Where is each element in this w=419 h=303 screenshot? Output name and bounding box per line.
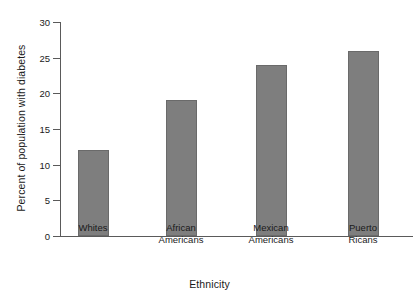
y-axis-tick-label: 5 [45,195,50,206]
x-axis-category-label: Whites [43,222,143,234]
y-axis-line [60,22,61,236]
bar [256,65,287,236]
bar-chart-figure: Percent of population with diabetes 0510… [0,0,419,303]
y-axis-tick-label: 10 [39,159,50,170]
y-axis-tick-label: 15 [39,124,50,135]
x-axis-category-label: AfricanAmericans [131,222,231,245]
y-axis-tick [53,22,60,23]
x-axis-category-label-line: Puerto [313,222,413,234]
plot-area: 051015202530 [60,22,413,236]
x-axis-category-label: MexicanAmericans [221,222,321,245]
y-axis-tick-label: 20 [39,88,50,99]
x-axis-category-label-line: Mexican [221,222,321,234]
y-axis-tick [53,58,60,59]
y-axis-tick [53,129,60,130]
bar [348,51,379,236]
y-axis-title: Percent of population with diabetes [14,8,28,248]
y-axis-tick [53,93,60,94]
x-axis-category-label-line: Ricans [313,234,413,246]
x-axis-category-label-line: African [131,222,231,234]
x-axis-category-label-line: Americans [131,234,231,246]
x-axis-category-label-line: Whites [43,222,143,234]
x-axis-category-label: PuertoRicans [313,222,413,245]
y-axis-tick [53,165,60,166]
bar [166,100,197,236]
x-axis-title: Ethnicity [0,278,419,290]
y-axis-tick-label: 30 [39,17,50,28]
x-axis-category-label-line: Americans [221,234,321,246]
y-axis-tick-label: 25 [39,52,50,63]
y-axis-tick [53,200,60,201]
y-axis-tick [53,236,60,237]
